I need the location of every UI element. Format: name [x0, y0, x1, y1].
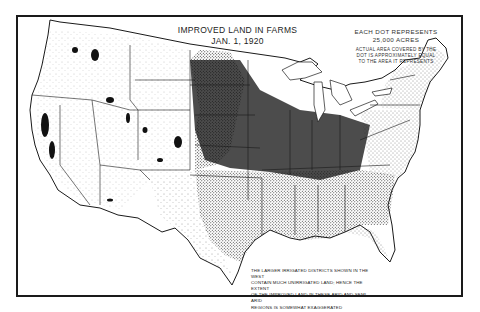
- map-title: IMPROVED LAND IN FARMS JAN. 1, 1920: [150, 25, 325, 47]
- note-line-1: THE LARGER IRRIGATED DISTRICTS SHOWN IN …: [251, 268, 369, 280]
- title-line-2: JAN. 1, 1920: [150, 36, 325, 47]
- legend-line-5: TO THE AREA IT REPRESENTS: [332, 59, 460, 65]
- legend-line-2: 25,000 ACRES: [332, 36, 460, 44]
- title-line-1: IMPROVED LAND IN FARMS: [150, 25, 325, 36]
- map-footnote: THE LARGER IRRIGATED DISTRICTS SHOWN IN …: [251, 268, 369, 311]
- note-line-4: REGIONS IS SOMEWHAT EXAGGERATED: [251, 305, 369, 311]
- legend-line-1: EACH DOT REPRESENTS: [332, 28, 460, 36]
- note-line-3: OF THE IMPROVED LAND IN THESE ARID AND S…: [251, 292, 369, 304]
- map-legend: EACH DOT REPRESENTS 25,000 ACRES ACTUAL …: [332, 28, 460, 65]
- note-line-2: CONTAIN MUCH UNIRRIGATED LAND; HENCE THE…: [251, 280, 369, 292]
